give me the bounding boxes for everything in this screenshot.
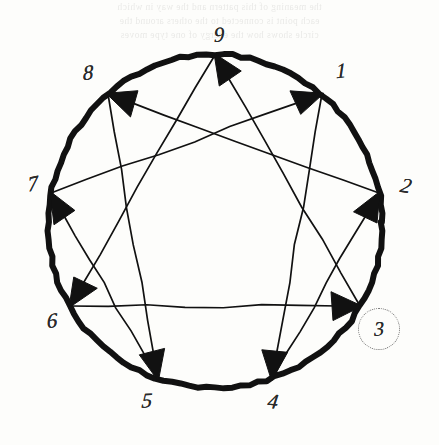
arrow-line-9-to-6	[81, 55, 215, 287]
arrow-head-2	[354, 191, 380, 223]
enneagram-diagram: the meaning of this pattern and the way …	[0, 0, 439, 445]
arrow-head-3	[331, 292, 362, 321]
point-label-9: 9	[214, 22, 225, 48]
point-label-3: 3	[374, 317, 384, 341]
arrow-line-1-to-4	[276, 94, 322, 358]
point-label-8: 8	[83, 60, 94, 86]
enneagram-circle	[48, 54, 383, 388]
point-label-7: 7	[27, 170, 39, 197]
arrow-head-6	[69, 277, 97, 308]
point-label-1: 1	[336, 58, 347, 84]
arrow-head-7	[50, 191, 75, 224]
arrow-line-8-to-5	[108, 94, 154, 358]
arrow-line-3-to-9	[226, 74, 360, 306]
arrow-line-6-to-3	[70, 305, 338, 308]
point-label-5: 5	[141, 388, 153, 414]
circle-outline	[48, 54, 383, 388]
enneagram-figure-svg	[0, 0, 439, 445]
point-label-6: 6	[47, 308, 58, 334]
